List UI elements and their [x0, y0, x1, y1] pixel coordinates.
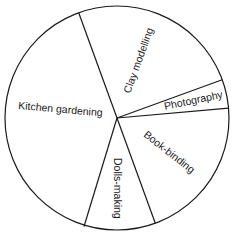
slice-label-dolls-making: Dolls-making — [112, 158, 124, 219]
pie-chart: Kitchen gardening Clay modelling Photogr… — [0, 0, 234, 238]
